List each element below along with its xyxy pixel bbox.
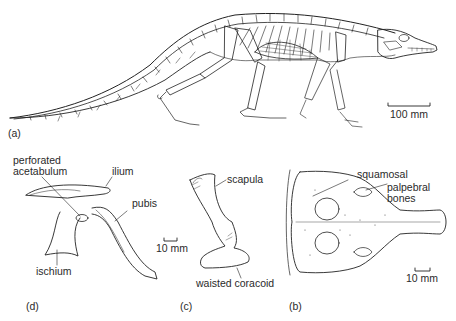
panel-label-b: (b) — [289, 300, 302, 312]
label-ilium: ilium — [112, 166, 134, 177]
label-palpebral-bones: bones — [387, 193, 416, 204]
shoulder-girdle-drawing — [190, 174, 249, 278]
label-squamosal: squamosal — [357, 169, 408, 180]
label-pubis: pubis — [132, 198, 157, 209]
scale-label-d: 10 mm — [156, 243, 188, 254]
skeleton-lateral — [10, 13, 437, 127]
panel-label-c: (c) — [180, 300, 192, 312]
scale-label-b: 10 mm — [406, 273, 438, 284]
pelvis-drawing — [26, 177, 177, 279]
label-ischium: ischium — [36, 266, 72, 277]
scale-label-a: 100 mm — [390, 109, 428, 120]
panel-label-d: (d) — [26, 300, 39, 312]
panel-label-a: (a) — [8, 127, 21, 139]
label-acetabulum: acetabulum — [13, 166, 67, 177]
label-waisted-coracoid: waisted coracoid — [196, 278, 274, 289]
label-scapula: scapula — [227, 174, 263, 185]
